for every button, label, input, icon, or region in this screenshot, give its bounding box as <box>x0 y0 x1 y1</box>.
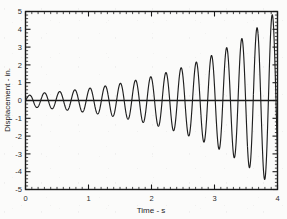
y-tick-label: -1 <box>15 114 22 123</box>
y-tick-label: 5 <box>18 7 22 16</box>
y-tick-label: 0 <box>18 96 22 105</box>
y-tick-label: -3 <box>15 150 22 159</box>
x-tick-label: 1 <box>86 194 90 203</box>
y-tick-label: -2 <box>15 132 22 141</box>
y-tick-label: 1 <box>18 78 22 87</box>
y-axis-tick-labels: -5-4-3-2-1012345 <box>15 7 22 194</box>
x-axis-title: Time - s <box>137 206 166 215</box>
y-tick-label: 2 <box>18 61 22 70</box>
y-tick-label: 3 <box>18 43 22 52</box>
displacement-curve <box>26 15 278 180</box>
x-tick-label: 3 <box>212 194 216 203</box>
figure-panel: 01234 -5-4-3-2-1012345 Time - s Displace… <box>0 0 287 219</box>
x-axis-tick-labels: 01234 <box>23 194 279 203</box>
y-tick-label: -5 <box>15 185 22 194</box>
y-tick-label: -4 <box>15 167 22 176</box>
x-tick-label: 4 <box>275 194 279 203</box>
y-tick-label: 4 <box>18 25 22 34</box>
x-tick-label: 0 <box>23 194 27 203</box>
x-tick-label: 2 <box>149 194 153 203</box>
displacement-vs-time-chart: 01234 -5-4-3-2-1012345 Time - s Displace… <box>0 0 287 219</box>
y-axis-title: Displacement - in. <box>3 68 12 132</box>
